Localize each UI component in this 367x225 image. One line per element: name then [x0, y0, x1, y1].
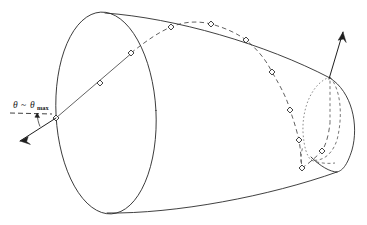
marker-point — [299, 165, 305, 171]
trajectory-marker-group — [53, 21, 325, 171]
marker-point — [296, 137, 302, 143]
theta-symbol: θ — [13, 100, 18, 110]
top-generator-line — [105, 13, 330, 78]
bottom-generator-line — [107, 172, 337, 213]
figure-root: θ ~ θ max — [0, 0, 367, 225]
cone-trajectory-diagram: θ ~ θ max — [0, 0, 367, 225]
exit-direction-arrow-head — [338, 32, 346, 43]
dashed-helical-trajectory-descending — [131, 22, 302, 168]
marker-point — [168, 24, 174, 30]
theta-symbol-2: θ — [30, 100, 35, 110]
theta-max-label: θ ~ θ max — [13, 100, 50, 111]
inner-dotted-loop-left — [303, 77, 330, 160]
marker-point — [269, 69, 275, 75]
theta-subscript-max: max — [37, 104, 50, 111]
straight-trajectory-segment — [56, 52, 133, 118]
horizontal-reference-dash — [10, 113, 52, 114]
left-base-ellipse — [51, 10, 161, 217]
right-end-cap-near-edge — [311, 157, 337, 172]
marker-point — [208, 21, 214, 27]
marker-point — [97, 80, 103, 86]
marker-point — [287, 107, 293, 113]
right-end-cap — [330, 78, 355, 172]
relation-symbol: ~ — [21, 100, 26, 110]
inner-dotted-loop-right — [311, 77, 340, 160]
